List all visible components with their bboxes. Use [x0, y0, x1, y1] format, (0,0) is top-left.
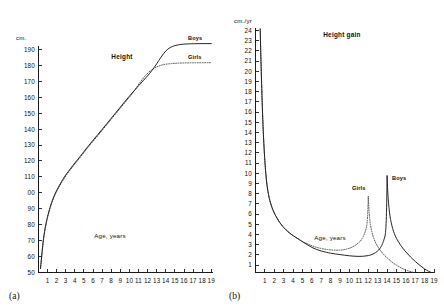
y-tick-14: 14 [245, 129, 253, 136]
y-tick-130: 130 [24, 141, 35, 148]
y-tick-90: 90 [28, 205, 36, 212]
panel-a-x-ticklabels: 1 2 3 4 5 6 7 8 9 10 11 12 13 14 15 16 1… [46, 277, 216, 284]
panel-a-title: Height [111, 53, 133, 61]
y-tick-15: 15 [245, 119, 253, 126]
y-tick-23: 23 [245, 37, 253, 44]
panel-b-y-ticklabels: 24 23 22 21 20 19 18 17 16 15 14 13 12 1… [245, 27, 253, 269]
x-tick-14: 14 [162, 277, 170, 284]
y-tick-21: 21 [245, 57, 253, 64]
panel-a-y-ticklabels: 190 180 170 160 150 140 130 120 110 00 9… [24, 46, 35, 276]
x-tick-4: 4 [73, 277, 77, 284]
panel-b-height-gain: cm./yr [222, 0, 444, 306]
y-tick-170: 170 [24, 78, 35, 85]
y-tick-13: 13 [245, 139, 253, 146]
panel-a-girls-label: Girls [188, 54, 202, 60]
x-tick-12: 12 [144, 277, 152, 284]
x-tick-7: 7 [100, 277, 104, 284]
x-tick-19: 19 [208, 277, 216, 284]
x-tick-13: 13 [374, 277, 382, 284]
x-tick-11: 11 [355, 277, 362, 284]
y-tick-70: 70 [28, 237, 36, 244]
x-tick-4: 4 [291, 277, 295, 284]
panel-a-height: cm. 1 [0, 0, 222, 306]
x-tick-11: 11 [135, 277, 142, 284]
panel-a-x-ticks [48, 269, 212, 273]
panel-a-girls-curve [41, 63, 212, 269]
y-tick-190: 190 [24, 46, 35, 53]
x-tick-8: 8 [109, 277, 113, 284]
y-tick-17: 17 [245, 98, 253, 105]
panel-a-y-unit: cm. [16, 34, 27, 41]
panel-b-y-unit: cm./yr [234, 17, 252, 24]
x-tick-9: 9 [338, 277, 342, 284]
y-tick-11: 11 [245, 159, 252, 166]
x-tick-15: 15 [171, 277, 179, 284]
x-tick-16: 16 [402, 277, 410, 284]
x-tick-6: 6 [310, 277, 314, 284]
y-tick-50: 50 [28, 269, 36, 276]
panel-b-title: Height gain [323, 31, 361, 39]
x-tick-18: 18 [421, 277, 429, 284]
y-tick-16: 16 [245, 108, 253, 115]
panel-a-boys-label: Boys [188, 35, 202, 41]
y-tick-60: 60 [28, 253, 36, 260]
x-tick-19: 19 [430, 277, 438, 284]
y-tick-180: 180 [24, 62, 35, 69]
panel-b-letter: (b) [229, 291, 240, 302]
x-tick-5: 5 [301, 277, 305, 284]
y-tick-80: 80 [28, 221, 36, 228]
panel-b-boys-label: Boys [392, 175, 406, 181]
panel-a-boys-curve [41, 44, 212, 269]
y-tick-12: 12 [245, 149, 253, 156]
panel-b-girls-label: Girls [352, 185, 366, 191]
x-tick-9: 9 [118, 277, 122, 284]
x-tick-14: 14 [383, 277, 391, 284]
y-tick-19: 19 [245, 78, 253, 85]
y-tick-7: 7 [248, 200, 252, 207]
y-tick-6: 6 [248, 210, 252, 217]
y-tick-10: 10 [245, 170, 253, 177]
x-tick-17: 17 [412, 277, 420, 284]
y-tick-3: 3 [248, 241, 252, 248]
panel-a-svg: cm. 1 [0, 0, 222, 306]
panel-a-x-caption: Age, years [94, 232, 126, 239]
panel-a-y-ticks [39, 50, 43, 273]
y-tick-20: 20 [245, 68, 253, 75]
y-tick-2: 2 [248, 251, 252, 258]
x-tick-10: 10 [126, 277, 134, 284]
x-tick-15: 15 [393, 277, 401, 284]
x-tick-1: 1 [46, 277, 50, 284]
panel-b-x-caption: Age, years [314, 234, 346, 241]
panel-b-svg: cm./yr [222, 0, 444, 306]
x-tick-1: 1 [263, 277, 267, 284]
y-tick-8: 8 [248, 190, 252, 197]
y-tick-100: 00 [28, 189, 36, 196]
y-tick-5: 5 [248, 221, 252, 228]
x-tick-6: 6 [91, 277, 95, 284]
y-tick-4: 4 [248, 231, 252, 238]
x-tick-17: 17 [189, 277, 197, 284]
y-tick-140: 140 [24, 126, 35, 133]
x-tick-2: 2 [272, 277, 276, 284]
y-tick-110: 110 [24, 173, 35, 180]
y-tick-18: 18 [245, 88, 253, 95]
y-tick-9: 9 [248, 180, 252, 187]
x-tick-3: 3 [282, 277, 286, 284]
x-tick-10: 10 [346, 277, 354, 284]
panel-a-letter: (a) [9, 291, 20, 302]
x-tick-7: 7 [319, 277, 323, 284]
x-tick-5: 5 [82, 277, 86, 284]
y-tick-160: 160 [24, 94, 35, 101]
y-tick-150: 150 [24, 110, 35, 117]
x-tick-12: 12 [365, 277, 373, 284]
y-tick-1: 1 [248, 261, 252, 268]
growth-chart-figure: cm. 1 [0, 0, 444, 306]
panel-b-x-ticklabels: 1 2 3 4 5 6 7 8 9 10 11 12 13 14 15 16 1… [263, 277, 438, 284]
x-tick-13: 13 [153, 277, 161, 284]
x-tick-2: 2 [55, 277, 59, 284]
panel-b-x-ticks [265, 269, 434, 273]
x-tick-18: 18 [198, 277, 206, 284]
x-tick-3: 3 [64, 277, 68, 284]
y-tick-22: 22 [245, 47, 253, 54]
x-tick-16: 16 [180, 277, 188, 284]
